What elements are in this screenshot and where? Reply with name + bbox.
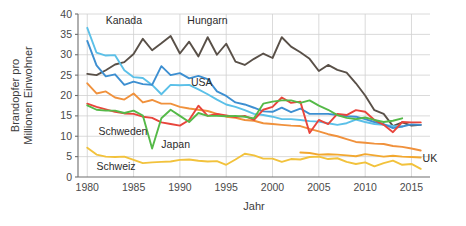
series-label-usa: USA xyxy=(191,76,213,88)
fire-deaths-line-chart: 0510152025303540 19801985199019952000200… xyxy=(0,0,466,226)
x-tick-label: 2000 xyxy=(261,181,285,193)
series-label-uk: UK xyxy=(423,152,438,164)
series-label-kanada: Kanada xyxy=(106,14,142,26)
y-tick-label: 0 xyxy=(66,171,72,183)
series-label-hungarn: Hungarn xyxy=(187,14,227,26)
y-tick-label: 40 xyxy=(60,8,72,20)
x-tick-label: 1990 xyxy=(168,181,192,193)
y-tick-label: 35 xyxy=(60,28,72,40)
x-tick-label: 2010 xyxy=(353,181,377,193)
y-tick-label: 15 xyxy=(60,109,72,121)
y-axis-title-line2: Millionen Einwohner xyxy=(22,46,34,145)
series-label-schweden: Schweden xyxy=(98,125,147,137)
y-tick-label: 5 xyxy=(66,150,72,162)
x-tick-label: 2005 xyxy=(307,181,331,193)
y-tick-label: 25 xyxy=(60,69,72,81)
series-label-schweiz: Schweiz xyxy=(97,160,136,172)
x-tick-label: 1985 xyxy=(122,181,146,193)
y-tick-label: 10 xyxy=(60,130,72,142)
x-tick-label: 1995 xyxy=(215,181,239,193)
x-tick-label: 1980 xyxy=(76,181,100,193)
series-label-japan: Japan xyxy=(161,138,190,150)
y-tick-label: 30 xyxy=(60,48,72,60)
y-tick-label: 20 xyxy=(60,89,72,101)
x-tick-label: 2015 xyxy=(400,181,424,193)
y-axis-title-line1: Brandopfer pro xyxy=(9,59,21,132)
x-axis-title: Jahr xyxy=(243,200,265,212)
